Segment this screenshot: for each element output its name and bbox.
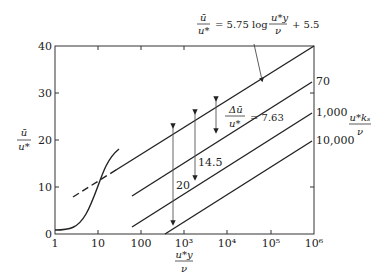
y-tick-labels: 0 10 20 30 40 bbox=[38, 40, 52, 241]
svg-text:10: 10 bbox=[91, 237, 105, 250]
rough-line-70 bbox=[132, 82, 312, 196]
svg-text:70: 70 bbox=[316, 75, 330, 88]
svg-text:10⁶: 10⁶ bbox=[305, 237, 324, 250]
svg-text:u*: u* bbox=[18, 141, 29, 152]
svg-text:0: 0 bbox=[45, 228, 52, 241]
svg-text:ν: ν bbox=[357, 126, 363, 137]
roughness-labels: 70 1,000 10,000 bbox=[316, 75, 355, 147]
svg-text:20: 20 bbox=[38, 134, 52, 147]
svg-text:u*: u* bbox=[229, 118, 240, 129]
svg-text:Δū: Δū bbox=[228, 104, 243, 115]
svg-text:u*: u* bbox=[198, 25, 209, 36]
y-axis-label: ū u* bbox=[17, 127, 31, 152]
svg-text:= 5.75 log: = 5.75 log bbox=[215, 19, 268, 30]
plot-frame bbox=[55, 46, 314, 234]
svg-text:= 7.63: = 7.63 bbox=[250, 112, 284, 123]
equation-leader bbox=[254, 44, 262, 80]
label-14-5: 14.5 bbox=[198, 156, 223, 169]
rough-line-1000 bbox=[132, 113, 312, 227]
svg-text:1: 1 bbox=[52, 237, 59, 250]
svg-text:30: 30 bbox=[38, 87, 52, 100]
svg-text:u*kₛ: u*kₛ bbox=[350, 112, 371, 123]
svg-text:100: 100 bbox=[131, 237, 152, 250]
y-ticks bbox=[55, 93, 314, 187]
svg-text:ū: ū bbox=[21, 127, 27, 138]
buffer-curve bbox=[55, 149, 119, 230]
svg-text:40: 40 bbox=[38, 40, 52, 53]
svg-text:ν: ν bbox=[275, 25, 281, 36]
svg-text:10,000: 10,000 bbox=[316, 134, 355, 147]
x-axis-label: u*y ν bbox=[175, 249, 193, 274]
svg-text:u*y: u*y bbox=[271, 12, 288, 23]
svg-text:u*y: u*y bbox=[175, 249, 192, 260]
label-20: 20 bbox=[176, 179, 190, 192]
velocity-profile-diagram: 1 10 100 10³ 10⁴ 10⁵ 10⁶ 0 10 20 30 40 ū… bbox=[0, 0, 385, 280]
delta-u-label: Δū u* = 7.63 bbox=[225, 104, 284, 129]
svg-text:1,000: 1,000 bbox=[316, 106, 348, 119]
smooth-wall-law-line bbox=[116, 46, 314, 170]
svg-text:ν: ν bbox=[181, 263, 187, 274]
svg-text:ū: ū bbox=[200, 12, 206, 23]
svg-text:10⁵: 10⁵ bbox=[262, 237, 280, 250]
svg-text:10⁴: 10⁴ bbox=[218, 237, 237, 250]
svg-text:10: 10 bbox=[38, 181, 52, 194]
svg-text:+ 5.5: + 5.5 bbox=[292, 19, 319, 30]
x-ticks bbox=[98, 46, 271, 234]
equation-label: ū u* = 5.75 log u*y ν + 5.5 bbox=[197, 12, 319, 36]
